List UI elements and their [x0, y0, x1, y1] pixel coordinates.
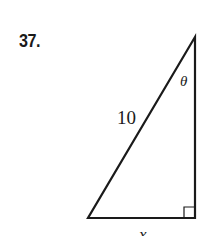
base-label: x — [138, 225, 147, 236]
right-angle-marker — [184, 207, 195, 218]
triangle-diagram: 10 θ x — [0, 0, 210, 236]
right-triangle — [88, 37, 195, 218]
angle-label: θ — [180, 73, 188, 89]
hypotenuse-label: 10 — [117, 107, 136, 128]
